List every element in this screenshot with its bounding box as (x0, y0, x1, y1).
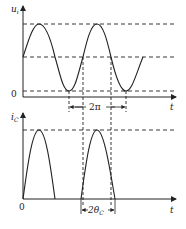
current-pulse-2 (81, 130, 115, 199)
top-plot: 2π ui 0 t (11, 4, 176, 205)
period-label: 2π (89, 102, 101, 112)
bottom-y-label: iC (11, 112, 19, 123)
waveform-diagram: 2π ui 0 t 2θC iC 0 t (0, 0, 186, 229)
current-pulse-1 (23, 130, 55, 199)
conduction-label: 2θC (87, 205, 104, 216)
top-x-label: t (170, 102, 174, 112)
bottom-x-label: t (170, 205, 174, 215)
top-y-label: ui (11, 4, 19, 15)
top-origin-label: 0 (11, 89, 17, 99)
bottom-plot: 2θC iC 0 t (11, 112, 176, 216)
bottom-origin-label: 0 (19, 202, 25, 212)
